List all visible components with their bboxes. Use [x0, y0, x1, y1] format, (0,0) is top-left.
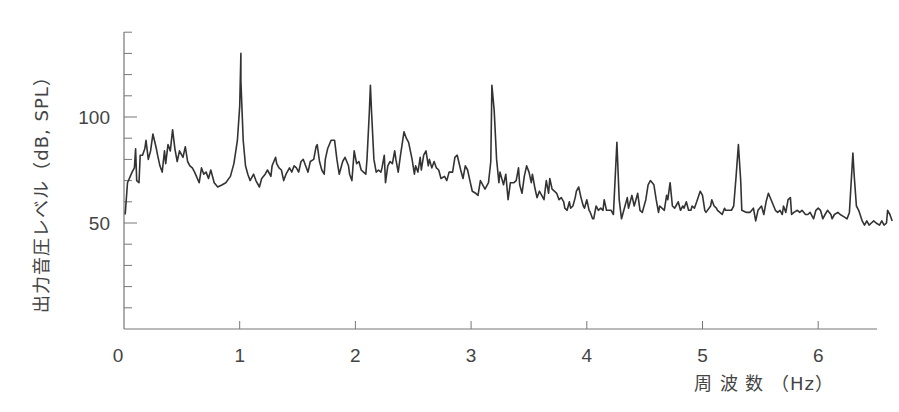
spectrum-line [125, 53, 892, 225]
x-tick-label: 1 [234, 345, 245, 366]
x-tick-label: 2 [350, 345, 361, 366]
spectrum-chart: 50100 0123456 出力音圧レベル（dB, SPL） 周 波 数 （Hz… [0, 0, 899, 412]
x-axis [124, 321, 877, 329]
x-tick-label: 3 [466, 345, 477, 366]
y-axis [124, 32, 137, 329]
y-axis-title: 出力音圧レベル（dB, SPL） [31, 67, 52, 313]
x-tick-labels: 0123456 [113, 345, 824, 366]
y-tick-labels: 50100 [78, 107, 110, 234]
y-tick-label: 50 [89, 213, 110, 234]
x-axis-title: 周 波 数 （Hz） [694, 373, 834, 394]
x-tick-label: 4 [582, 345, 593, 366]
x-tick-label: 0 [113, 345, 124, 366]
x-tick-label: 5 [697, 345, 708, 366]
x-tick-label: 6 [813, 345, 824, 366]
y-tick-label: 100 [78, 107, 110, 128]
